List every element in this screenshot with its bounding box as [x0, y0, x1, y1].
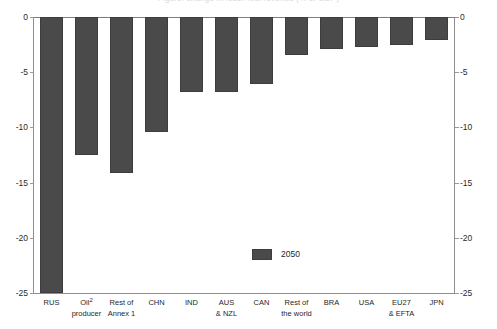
legend-label-2050: 2050 — [281, 250, 300, 259]
y-tick-right-1 — [455, 72, 459, 73]
y-tick-right-0 — [455, 17, 459, 18]
x-axis-label-11: JPN — [413, 298, 460, 309]
y-axis-label-left-4: -20 — [16, 234, 28, 243]
y-axis-label-right-4: -20 — [460, 234, 472, 243]
y-axis-label-left-5: -25 — [16, 289, 28, 298]
bar-jpn — [425, 17, 448, 40]
bar-rus — [40, 17, 63, 293]
x-axis-label-superscript: 2 — [89, 297, 92, 303]
x-axis-label-line2: the world — [273, 309, 320, 320]
y-tick-right-2 — [455, 127, 459, 128]
y-axis-label-left-1: -5 — [20, 68, 28, 77]
x-axis-label-line2: & EFTA — [378, 309, 425, 320]
bar-rest-of-the-world — [285, 17, 308, 55]
x-axis-labels-layer: RUSOil2producerRest ofAnnex 1CHNINDAUS& … — [34, 298, 454, 329]
bar-usa — [355, 17, 378, 47]
y-axis-label-right-5: -25 — [460, 289, 472, 298]
x-axis-label-line2: Annex 1 — [98, 309, 145, 320]
bar-ind — [180, 17, 203, 92]
y-axis-label-left-3: -15 — [16, 179, 28, 188]
x-axis-label-line1: JPN — [413, 298, 460, 309]
y-axis-label-right-2: -10 — [460, 123, 472, 132]
y-axis-label-right-0: 0 — [460, 13, 465, 22]
y-axis-label-left-2: -10 — [16, 123, 28, 132]
chart-title: Figure: change in fossil fuel revenue (%… — [0, 0, 497, 3]
bar-rest-of-annex-1 — [110, 17, 133, 173]
chart-screenshot: Figure: change in fossil fuel revenue (%… — [0, 0, 497, 329]
bars-layer — [34, 17, 454, 294]
bar-can — [250, 17, 273, 84]
bar-chn — [145, 17, 168, 132]
y-axis-label-right-1: -5 — [460, 68, 468, 77]
y-axis-label-left-0: 0 — [23, 13, 28, 22]
y-tick-right-5 — [455, 293, 459, 294]
legend: 2050 — [252, 249, 300, 260]
legend-swatch-2050 — [252, 249, 272, 260]
bar-eu27-&-efta — [390, 17, 413, 45]
bar-bra — [320, 17, 343, 49]
bar-oil-2-producer — [75, 17, 98, 155]
y-axis-label-right-3: -15 — [460, 179, 472, 188]
bar-aus-&-nzl — [215, 17, 238, 92]
y-tick-right-4 — [455, 238, 459, 239]
y-tick-right-3 — [455, 183, 459, 184]
x-axis-label-line2: & NZL — [203, 309, 250, 320]
